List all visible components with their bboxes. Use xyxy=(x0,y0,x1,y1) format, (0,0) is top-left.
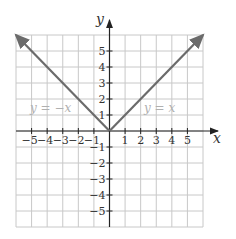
x-axis-label: x xyxy=(213,130,221,146)
y-tick-label: −2 xyxy=(89,157,105,170)
absolute-value-graph: −5−4−3−2−11234554321−1−2−3−4−5 x y y = −… xyxy=(0,0,236,239)
x-tick-label: 2 xyxy=(137,134,144,147)
x-tick-label: 1 xyxy=(122,134,129,147)
x-tick-label: −4 xyxy=(37,134,53,147)
y-tick-label: −5 xyxy=(89,205,105,218)
x-tick-label: 3 xyxy=(153,134,160,147)
y-tick-label: −3 xyxy=(89,173,105,186)
y-tick-label: 4 xyxy=(99,61,106,74)
y-axis-label: y xyxy=(95,11,105,27)
x-tick-label: 4 xyxy=(168,134,175,147)
annotation-right: y = x xyxy=(143,101,175,115)
y-tick-label: 2 xyxy=(99,93,106,106)
annotation-left: y = −x xyxy=(29,101,72,115)
y-tick-label: 3 xyxy=(99,77,106,90)
y-tick-label: 1 xyxy=(99,109,106,122)
x-tick-label: −3 xyxy=(53,134,69,147)
y-tick-label: 5 xyxy=(99,45,106,58)
x-tick-label: −5 xyxy=(21,134,37,147)
y-tick-label: −4 xyxy=(89,189,105,202)
x-tick-label: −2 xyxy=(68,134,84,147)
x-tick-label: 5 xyxy=(184,134,191,147)
y-tick-label: −1 xyxy=(89,141,105,154)
